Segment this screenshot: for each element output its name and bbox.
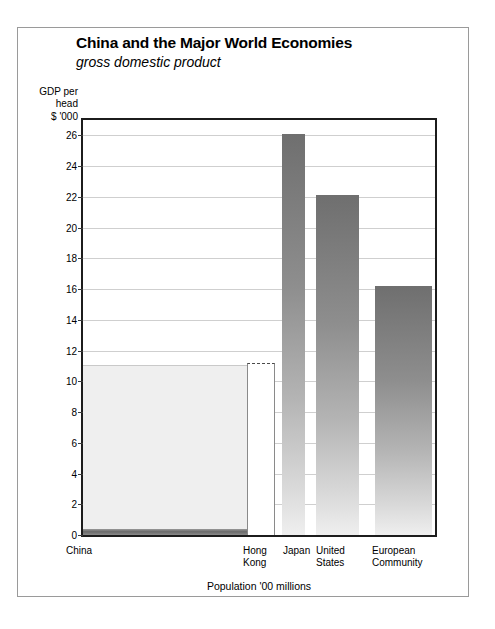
bar-japan (282, 134, 305, 535)
y-tick-mark (78, 320, 83, 321)
bar-hong-kong (247, 363, 275, 535)
plot-inner: 02468101214161820222426 (83, 120, 435, 535)
y-tick-mark (78, 351, 83, 352)
gridline (83, 166, 435, 167)
x-axis-label-hong-kong: Hong Kong (243, 545, 267, 568)
y-tick-label: 0 (71, 530, 77, 541)
y-tick-label: 16 (66, 284, 77, 295)
y-tick-mark (78, 258, 83, 259)
y-tick-label: 6 (71, 437, 77, 448)
chart-title: China and the Major World Economies (76, 33, 456, 52)
y-tick-label: 8 (71, 407, 77, 418)
x-axis-label-european-community: European Community (372, 545, 423, 568)
y-tick-label: 24 (66, 161, 77, 172)
bar-china (83, 529, 247, 535)
y-axis-title: GDP per head $ '000 (16, 86, 78, 123)
y-tick-mark (78, 228, 83, 229)
y-tick-label: 12 (66, 345, 77, 356)
x-axis-label-china: China (66, 545, 92, 557)
y-tick-label: 20 (66, 222, 77, 233)
gridline (83, 258, 435, 259)
y-tick-label: 4 (71, 468, 77, 479)
gridline (83, 197, 435, 198)
chart-subtitle: gross domestic product (76, 53, 456, 71)
y-tick-label: 26 (66, 130, 77, 141)
gridline (83, 135, 435, 136)
y-tick-label: 18 (66, 253, 77, 264)
y-tick-mark (78, 535, 83, 536)
y-axis-title-line-2: head (16, 98, 78, 110)
y-tick-mark (78, 135, 83, 136)
y-tick-mark (78, 289, 83, 290)
y-tick-label: 22 (66, 191, 77, 202)
gridline (83, 228, 435, 229)
title-block: China and the Major World Economies gros… (76, 33, 456, 71)
bar-european-community (375, 286, 432, 535)
chart-page: China and the Major World Economies gros… (0, 0, 495, 629)
y-axis-title-line-1: GDP per (16, 86, 78, 98)
x-axis-label-japan: Japan (283, 545, 310, 557)
y-tick-mark (78, 166, 83, 167)
y-tick-label: 10 (66, 376, 77, 387)
y-tick-label: 14 (66, 314, 77, 325)
y-tick-mark (78, 197, 83, 198)
bar-united-states (316, 195, 359, 535)
plot-area: 02468101214161820222426 (81, 118, 437, 537)
x-axis-label-united-states: United States (316, 545, 345, 568)
bar-china-reference-block (83, 365, 248, 535)
y-tick-label: 2 (71, 499, 77, 510)
x-axis-title: Population '00 millions (81, 580, 437, 592)
y-axis-title-line-3: $ '000 (16, 111, 78, 123)
